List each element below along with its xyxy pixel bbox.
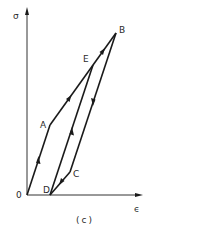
x-axis-arrow-icon (135, 193, 143, 197)
segment-A-B (50, 33, 116, 125)
point-label-D: D (43, 185, 50, 195)
direction-arrows (36, 48, 105, 185)
stress-strain-diagram: σ ϵ 0 A E B C D (c) (0, 0, 209, 234)
hysteresis-loop (27, 33, 116, 195)
point-label-E: E (83, 54, 89, 64)
y-axis-arrow-icon (25, 7, 29, 15)
point-label-B: B (119, 25, 125, 35)
point-label-A: A (40, 120, 47, 130)
figure-caption: (c) (76, 215, 94, 225)
point-label-C: C (73, 169, 79, 179)
axes (25, 7, 143, 197)
x-axis-label: ϵ (134, 204, 140, 214)
y-axis-label: σ (13, 11, 19, 21)
origin-label: 0 (16, 190, 22, 200)
